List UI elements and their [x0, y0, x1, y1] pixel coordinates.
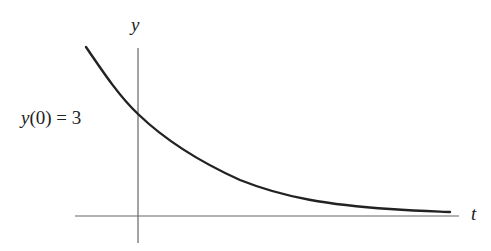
t-axis-label: t: [471, 203, 476, 225]
y-axis-label: y: [131, 14, 139, 36]
initial-value-rest: = 3: [52, 107, 82, 128]
decay-curve: [86, 47, 450, 212]
initial-value-label: y(0) = 3: [21, 107, 81, 129]
initial-value-arg: (0): [29, 107, 51, 128]
